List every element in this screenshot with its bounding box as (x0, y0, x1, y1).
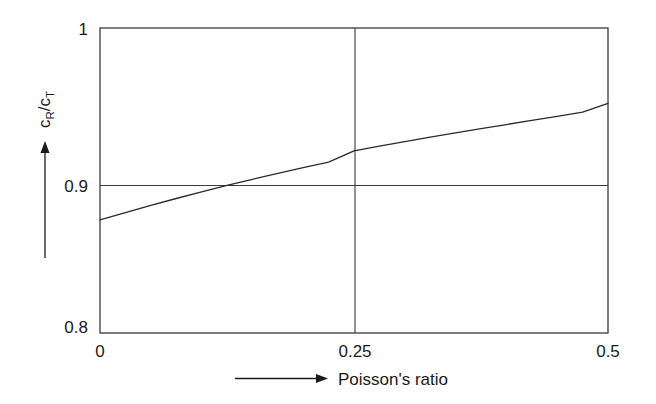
data-curve-cr-ct (100, 103, 608, 219)
up-arrow-icon (41, 141, 50, 153)
x-axis-title: Poisson's ratio (338, 370, 448, 389)
x-tick-label-0-5: 0.5 (596, 342, 620, 361)
y-axis-title-sub-r: R (44, 111, 56, 119)
figure-container: 1 0.9 0.8 0 0.25 0.5 cR/cT Poisson's rat… (0, 0, 656, 404)
y-tick-label-0-9: 0.9 (64, 177, 88, 196)
right-arrow-icon (316, 374, 328, 383)
y-axis-title-sub-t: T (44, 91, 56, 98)
y-tick-label-1: 1 (79, 20, 88, 39)
svg-text:cR/cT: cR/cT (35, 91, 56, 128)
y-tick-label-0-8: 0.8 (64, 318, 88, 337)
x-tick-label-0: 0 (95, 342, 104, 361)
chart-svg: 1 0.9 0.8 0 0.25 0.5 cR/cT Poisson's rat… (0, 0, 656, 404)
y-axis-title-slash: /c (35, 97, 54, 111)
plot-frame (100, 28, 608, 333)
x-tick-label-0-25: 0.25 (338, 342, 371, 361)
y-axis-title: cR/cT (35, 91, 56, 128)
